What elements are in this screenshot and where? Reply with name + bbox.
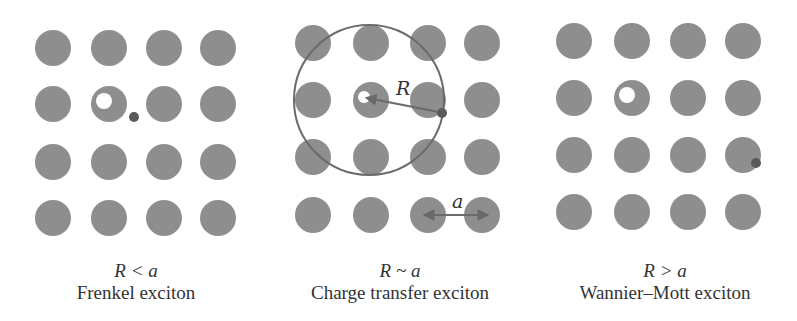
lattice-atom [200, 86, 236, 122]
electron [129, 112, 139, 122]
lattice-atom [725, 23, 761, 59]
electron [751, 158, 761, 168]
lattice-atom [410, 25, 446, 61]
lattice-atom [200, 200, 236, 236]
lattice-atom [670, 80, 706, 116]
charge-transfer-caption: R ~ a Charge transfer exciton [290, 260, 510, 304]
lattice-atom [614, 23, 650, 59]
hole [619, 87, 635, 103]
lattice-atom [410, 139, 446, 175]
lattice-atom [614, 137, 650, 173]
lattice-spacing-label: a [452, 190, 463, 212]
wannier-mott-name: Wannier–Mott exciton [555, 282, 775, 304]
lattice-atom [295, 25, 331, 61]
lattice-atom [91, 144, 127, 180]
panel-frenkel-exciton [35, 30, 236, 236]
wannier-mott-relation: R > a [555, 260, 775, 282]
lattice-atom [670, 137, 706, 173]
lattice-atom [614, 194, 650, 230]
lattice-atom [35, 86, 71, 122]
charge-transfer-name: Charge transfer exciton [290, 282, 510, 304]
lattice-atom [295, 82, 331, 118]
lattice-atom [556, 137, 592, 173]
hole [96, 93, 112, 109]
charge-transfer-relation: R ~ a [290, 260, 510, 282]
frenkel-caption: R < a Frenkel exciton [36, 260, 236, 304]
lattice-atom [556, 23, 592, 59]
frenkel-name: Frenkel exciton [36, 282, 236, 304]
lattice-atom [670, 23, 706, 59]
lattice-atom [91, 30, 127, 66]
lattice-atom [295, 139, 331, 175]
lattice-atom [295, 197, 331, 233]
lattice-atom [464, 82, 500, 118]
hole [358, 91, 370, 103]
lattice-atom [556, 194, 592, 230]
lattice-atom [353, 139, 389, 175]
wannier-mott-caption: R > a Wannier–Mott exciton [555, 260, 775, 304]
lattice-atom [353, 197, 389, 233]
exciton-diagram: Ra R < a Frenkel exciton R ~ a Charge tr… [0, 0, 797, 321]
radius-label: R [395, 77, 410, 99]
lattice-atom [91, 200, 127, 236]
lattice-atom [35, 144, 71, 180]
lattice-atom [670, 194, 706, 230]
lattice-atom [200, 30, 236, 66]
panel-wannier-mott-exciton [556, 23, 761, 230]
lattice-atom [725, 80, 761, 116]
lattice-atom [35, 30, 71, 66]
lattice-atom [146, 144, 182, 180]
lattice-atom [556, 80, 592, 116]
lattice-atom [464, 25, 500, 61]
lattice-atom [35, 200, 71, 236]
lattice-atom [146, 30, 182, 66]
panel-charge-transfer-exciton: Ra [294, 25, 500, 233]
lattice-atom [725, 194, 761, 230]
lattice-atom [146, 200, 182, 236]
frenkel-relation: R < a [36, 260, 236, 282]
lattice-atom [464, 139, 500, 175]
lattice-atom [200, 144, 236, 180]
lattice-atom [146, 86, 182, 122]
lattice-atom [353, 82, 389, 118]
electron [437, 108, 447, 118]
lattice-atom [353, 25, 389, 61]
